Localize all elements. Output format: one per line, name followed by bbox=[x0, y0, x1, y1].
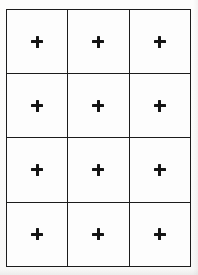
grid-cell-r2-c3 bbox=[129, 74, 190, 138]
plus-cross-vertical-arm bbox=[97, 228, 100, 240]
grid-cell-r4-c2 bbox=[68, 202, 129, 266]
grid-cell-r1-c2 bbox=[68, 10, 129, 74]
grid-cell-r3-c1 bbox=[7, 138, 68, 202]
grid-cell-r1-c1 bbox=[7, 10, 68, 74]
grid-row bbox=[7, 138, 191, 202]
grid-row bbox=[7, 74, 191, 138]
grid-row bbox=[7, 10, 191, 74]
cross-grid bbox=[6, 9, 191, 267]
plus-cross-vertical-arm bbox=[158, 228, 161, 240]
plus-cross-icon bbox=[153, 163, 167, 177]
plus-cross-vertical-arm bbox=[36, 228, 39, 240]
grid-cell-r2-c1 bbox=[7, 74, 68, 138]
grid-cell-r4-c1 bbox=[7, 202, 68, 266]
plus-cross-icon bbox=[91, 35, 105, 49]
plus-cross-vertical-arm bbox=[97, 100, 100, 112]
plus-cross-vertical-arm bbox=[158, 100, 161, 112]
plus-cross-vertical-arm bbox=[158, 36, 161, 48]
plus-cross-icon bbox=[153, 99, 167, 113]
grid-figure bbox=[0, 0, 198, 275]
plus-cross-vertical-arm bbox=[36, 100, 39, 112]
plus-cross-icon bbox=[153, 227, 167, 241]
grid-cell-r2-c2 bbox=[68, 74, 129, 138]
plus-cross-icon bbox=[91, 99, 105, 113]
plus-cross-icon bbox=[30, 35, 44, 49]
plus-cross-icon bbox=[30, 99, 44, 113]
grid-cell-r3-c2 bbox=[68, 138, 129, 202]
plus-cross-icon bbox=[30, 227, 44, 241]
plus-cross-vertical-arm bbox=[158, 164, 161, 176]
grid-cell-r1-c3 bbox=[129, 10, 190, 74]
plus-cross-vertical-arm bbox=[36, 36, 39, 48]
plus-cross-vertical-arm bbox=[97, 36, 100, 48]
plus-cross-icon bbox=[30, 163, 44, 177]
plus-cross-icon bbox=[91, 163, 105, 177]
grid-cell-r3-c3 bbox=[129, 138, 190, 202]
plus-cross-icon bbox=[153, 35, 167, 49]
plus-cross-icon bbox=[91, 227, 105, 241]
grid-row bbox=[7, 202, 191, 266]
plus-cross-vertical-arm bbox=[36, 164, 39, 176]
grid-cell-r4-c3 bbox=[129, 202, 190, 266]
plus-cross-vertical-arm bbox=[97, 164, 100, 176]
